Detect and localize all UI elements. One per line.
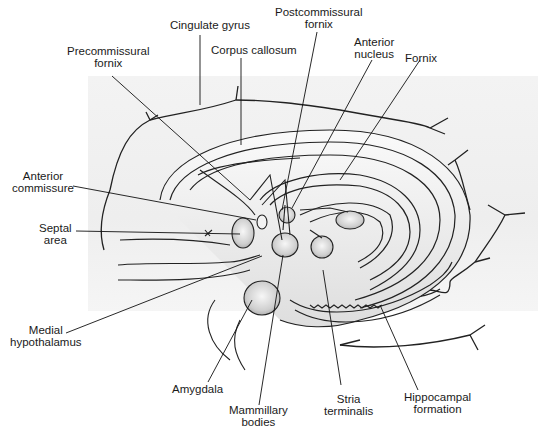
label-anterior-nucleus: Anterior nucleus [354,36,394,60]
corpus-callosum-shape [160,130,470,327]
label-septal-area: Septal area [39,222,72,246]
label-amygdala: Amygdala [172,383,223,395]
label-medial-hypothalamus: Medial hypothalamus [10,324,82,348]
septal-nucleus [232,218,254,248]
anterior-commissure-body [257,215,267,229]
label-mammillary-bodies: Mammillary bodies [229,404,288,428]
label-hippocampal-formation: Hippocampal formation [404,391,471,415]
fornix-bulb [336,211,364,229]
label-fornix: Fornix [405,52,437,64]
label-precommissural-fornix: Precommissural fornix [67,45,149,69]
thalamic-bulb [311,236,333,258]
label-anterior-commissure: Anterior commissure [12,170,74,194]
label-postcommissural-fornix: Postcommissural fornix [275,6,363,30]
label-cingulate-gyrus: Cingulate gyrus [170,19,250,31]
mammillary-body [272,233,298,257]
anterior-nucleus-body [279,207,295,223]
label-stria-terminalis: Stria terminalis [324,393,373,417]
label-corpus-callosum: Corpus callosum [211,44,297,56]
